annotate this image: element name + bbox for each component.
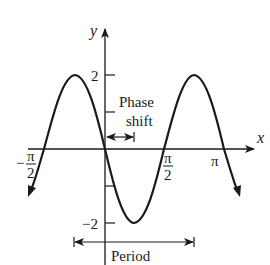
svg-text:2: 2 — [27, 165, 35, 181]
period-label: Period — [111, 248, 151, 264]
x-tick-label-half-pi: π 2 — [163, 150, 173, 183]
y-tick-label-neg2: −2 — [82, 216, 98, 232]
x-tick-label-neg-half-pi: − π 2 — [16, 148, 36, 181]
sinusoid-graph: y x 2 −2 − π 2 π 2 π Phase shift — [0, 0, 270, 265]
svg-text:π: π — [27, 148, 35, 164]
x-tick-label-pi: π — [211, 153, 219, 169]
curve-left-arrow-icon — [28, 185, 36, 197]
y-axis-label: y — [88, 22, 98, 40]
svg-text:π: π — [164, 150, 172, 166]
curve-right-arrow-icon — [233, 185, 241, 197]
x-axis-label: x — [256, 129, 264, 146]
phase-shift-label-line2: shift — [126, 113, 154, 129]
svg-text:2: 2 — [164, 167, 172, 183]
svg-text:−: − — [16, 155, 24, 171]
y-tick-label-2: 2 — [91, 68, 99, 84]
phase-shift-label-line1: Phase — [119, 94, 154, 110]
